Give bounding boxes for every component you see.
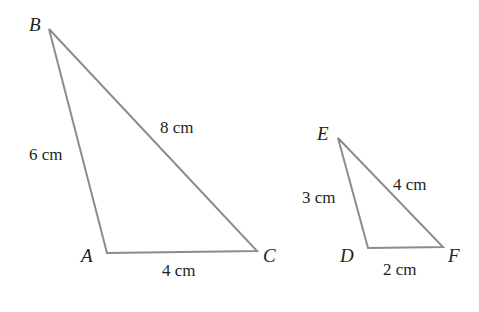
side-length-bc: 8 cm (160, 118, 194, 137)
side-length-ac: 4 cm (162, 261, 196, 280)
vertex-label-f: F (447, 245, 460, 266)
vertex-label-d: D (339, 245, 354, 266)
triangle-abc-outline (49, 29, 257, 253)
vertex-label-c: C (263, 245, 276, 266)
side-length-ef: 4 cm (393, 175, 427, 194)
side-length-df: 2 cm (383, 260, 417, 279)
vertex-label-a: A (79, 245, 93, 266)
vertex-label-e: E (316, 123, 329, 144)
triangle-abc: B A C 6 cm 8 cm 4 cm (29, 14, 276, 280)
triangle-def-outline (338, 138, 443, 248)
side-length-de: 3 cm (302, 188, 336, 207)
triangle-def: E D F 3 cm 4 cm 2 cm (302, 123, 460, 279)
similar-triangles-diagram: B A C 6 cm 8 cm 4 cm E D F 3 cm 4 cm 2 c… (0, 0, 479, 312)
side-length-ab: 6 cm (29, 145, 63, 164)
vertex-label-b: B (29, 14, 41, 35)
